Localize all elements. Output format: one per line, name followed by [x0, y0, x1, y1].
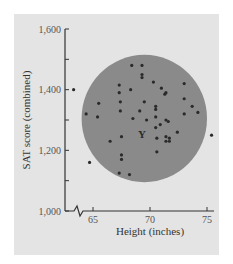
- data-point: [140, 64, 143, 67]
- data-point: [183, 112, 186, 115]
- x-tick-label: 75: [202, 214, 212, 225]
- data-point: [155, 150, 158, 153]
- data-point: [168, 140, 171, 143]
- y-axis-title: SAT score (combined): [20, 70, 33, 169]
- y-tick-label: 1,200: [39, 145, 62, 156]
- data-point: [72, 88, 75, 91]
- data-point: [183, 97, 186, 100]
- data-point: [154, 108, 157, 111]
- y-tick-label: 1,000: [39, 206, 62, 217]
- data-point: [130, 64, 133, 67]
- data-point: [143, 100, 146, 103]
- data-point: [140, 73, 143, 76]
- x-tick-label: 70: [145, 214, 155, 225]
- data-point: [131, 117, 134, 120]
- data-point: [120, 135, 123, 138]
- data-point: [160, 87, 163, 90]
- data-point: [118, 171, 121, 174]
- data-point: [154, 126, 157, 129]
- data-point: [152, 80, 155, 83]
- data-point: [138, 109, 141, 112]
- data-point: [120, 158, 123, 161]
- data-point: [109, 140, 112, 143]
- data-point: [140, 76, 143, 79]
- data-point: [183, 82, 186, 85]
- data-point: [164, 91, 167, 94]
- data-point: [129, 88, 132, 91]
- data-point: [118, 84, 121, 87]
- data-point: [97, 102, 100, 105]
- data-point: [120, 153, 123, 156]
- y-tick-label: 1,600: [39, 24, 62, 35]
- shaded-circle-region: [82, 55, 207, 182]
- x-axis-title: Height (inches): [116, 225, 184, 238]
- data-point: [155, 137, 158, 140]
- data-point: [118, 91, 121, 94]
- data-point: [119, 109, 122, 112]
- data-point: [154, 115, 157, 118]
- data-point: [168, 137, 171, 140]
- data-point: [210, 134, 213, 137]
- x-tick-label: 65: [88, 214, 98, 225]
- data-point: [119, 100, 122, 103]
- y-marker-label: Y: [138, 128, 146, 140]
- data-point: [145, 118, 148, 121]
- data-point: [164, 140, 167, 143]
- data-point: [159, 123, 162, 126]
- data-point: [128, 173, 131, 176]
- data-point: [85, 112, 88, 115]
- data-point: [154, 105, 157, 108]
- data-point: [176, 131, 179, 134]
- data-point: [191, 105, 194, 108]
- scatter-plot: Y 1,0001,2001,4001,600657075Height (inch…: [0, 0, 233, 264]
- data-point: [167, 120, 170, 123]
- data-point: [96, 115, 99, 118]
- highlight-circle: [82, 55, 207, 182]
- y-marker: Y: [138, 128, 146, 140]
- y-tick-label: 1,400: [39, 84, 62, 95]
- data-point: [88, 161, 91, 164]
- data-point: [196, 111, 199, 114]
- data-point: [164, 135, 167, 138]
